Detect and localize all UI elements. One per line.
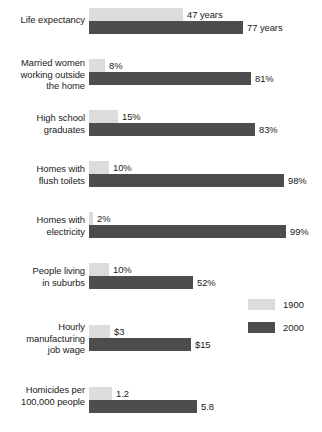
bar-value-2000: 77 years: [247, 21, 283, 34]
bar-1900: [89, 263, 109, 276]
metric-label: Life expectancy: [0, 14, 85, 26]
bar-value-2000: $15: [195, 338, 211, 351]
metric-label-line: in suburbs: [0, 277, 85, 289]
bar-2000: [89, 225, 286, 238]
chart-legend: 1900 2000: [248, 298, 304, 344]
metric-label-line: flush toilets: [0, 175, 85, 187]
bars-area: 1.25.8: [89, 387, 214, 413]
legend-entry-2000: 2000: [248, 321, 304, 333]
bar-row-1900: 1.2: [89, 387, 214, 400]
bar-row-1900: 8%: [89, 59, 274, 72]
metric-label: Homes withflush toilets: [0, 163, 85, 186]
legend-label-2000: 2000: [283, 322, 304, 333]
bar-row-2000: 99%: [89, 225, 309, 238]
bar-value-2000: 52%: [197, 276, 216, 289]
bar-row-1900: 2%: [89, 212, 309, 225]
bars-area: $3$15: [89, 325, 211, 351]
bar-value-2000: 99%: [290, 225, 309, 238]
bar-1900: [89, 212, 93, 225]
metric-label-line: electricity: [0, 226, 85, 238]
metric-label: Homes withelectricity: [0, 214, 85, 237]
metric-label: Hourlymanufacturingjob wage: [0, 321, 85, 356]
bar-2000: [89, 174, 284, 187]
comparison-bar-chart: Life expectancy47 years77 yearsMarried w…: [0, 0, 322, 432]
bar-row-1900: 10%: [89, 161, 307, 174]
bar-row-1900: $3: [89, 325, 211, 338]
bars-area: 2%99%: [89, 212, 309, 238]
bars-area: 10%52%: [89, 263, 216, 289]
bar-value-1900: 47 years: [187, 8, 223, 21]
bar-2000: [89, 276, 193, 289]
bar-2000: [89, 21, 243, 34]
bar-row-1900: 47 years: [89, 8, 283, 21]
bar-1900: [89, 59, 105, 72]
bar-value-2000: 5.8: [201, 400, 214, 413]
metric-label-line: working outside: [0, 69, 85, 81]
bar-row-2000: 5.8: [89, 400, 214, 413]
bar-value-1900: 8%: [109, 59, 122, 72]
bar-value-1900: 2%: [97, 212, 110, 225]
bar-row-1900: 10%: [89, 263, 216, 276]
bar-1900: [89, 8, 183, 21]
legend-swatch-1900: [248, 299, 275, 310]
metric-label-line: Married women: [0, 57, 85, 69]
bars-area: 8%81%: [89, 59, 274, 85]
metric-label-line: 100,000 people: [0, 396, 85, 408]
metric-label-line: the home: [0, 80, 85, 92]
bar-2000: [89, 123, 255, 136]
metric-label-line: job wage: [0, 344, 85, 356]
bar-value-1900: 10%: [113, 263, 132, 276]
legend-entry-1900: 1900: [248, 298, 304, 310]
bars-area: 10%98%: [89, 161, 307, 187]
metric-label: High schoolgraduates: [0, 112, 85, 135]
bars-area: 47 years77 years: [89, 8, 283, 34]
bars-area: 15%83%: [89, 110, 278, 136]
bar-value-2000: 83%: [259, 123, 278, 136]
bar-value-1900: 10%: [113, 161, 132, 174]
bar-value-1900: $3: [114, 325, 124, 338]
metric-label-line: Life expectancy: [0, 14, 85, 26]
metric-label-line: manufacturing: [0, 333, 85, 345]
bar-1900: [89, 161, 109, 174]
bar-row-2000: 52%: [89, 276, 216, 289]
metric-label-line: Homicides per: [0, 384, 85, 396]
metric-label: Homicides per100,000 people: [0, 384, 85, 407]
bar-2000: [89, 338, 191, 351]
bar-value-1900: 1.2: [116, 387, 129, 400]
bar-2000: [89, 400, 197, 413]
bar-row-2000: 81%: [89, 72, 274, 85]
bar-value-2000: 98%: [288, 174, 307, 187]
bar-2000: [89, 72, 251, 85]
bar-1900: [89, 110, 118, 123]
metric-label-line: People living: [0, 265, 85, 277]
bar-1900: [89, 387, 112, 400]
bar-row-2000: 77 years: [89, 21, 283, 34]
legend-swatch-2000: [248, 322, 275, 333]
metric-label-line: High school: [0, 112, 85, 124]
metric-label-line: Homes with: [0, 214, 85, 226]
metric-label-line: Homes with: [0, 163, 85, 175]
bar-value-2000: 81%: [255, 72, 274, 85]
bar-value-1900: 15%: [122, 110, 141, 123]
bar-row-2000: 98%: [89, 174, 307, 187]
metric-label: People livingin suburbs: [0, 265, 85, 288]
bar-1900: [89, 325, 110, 338]
legend-label-1900: 1900: [283, 299, 304, 310]
metric-label: Married womenworking outsidethe home: [0, 57, 85, 92]
bar-row-2000: 83%: [89, 123, 278, 136]
metric-label-line: graduates: [0, 124, 85, 136]
bar-row-1900: 15%: [89, 110, 278, 123]
bar-row-2000: $15: [89, 338, 211, 351]
metric-label-line: Hourly: [0, 321, 85, 333]
